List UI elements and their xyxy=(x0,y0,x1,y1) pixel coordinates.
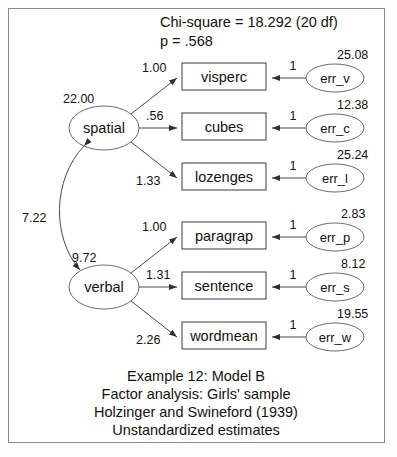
error-variance-err-s: 8.12 xyxy=(341,257,365,271)
error-label-err-p: err_p xyxy=(320,230,350,245)
loading-label-sentence: 1.31 xyxy=(146,268,170,282)
error-variance-err-c: 12.38 xyxy=(337,98,368,112)
observed-label-cubes: cubes xyxy=(205,119,244,135)
caption-line-1: Example 12: Model B xyxy=(127,368,265,384)
diagram-page: Chi-square = 18.292 (20 df) p = .568 vis… xyxy=(0,0,397,457)
chi-square-text: Chi-square = 18.292 (20 df) xyxy=(160,14,338,30)
error-variance-err-p: 2.83 xyxy=(341,207,365,221)
observed-label-visperc: visperc xyxy=(201,69,247,85)
latent-variance-verbal: 9.72 xyxy=(72,251,96,265)
error-path-label-err-c: 1 xyxy=(290,109,297,123)
latent-variance-spatial: 22.00 xyxy=(63,92,94,106)
caption-line-4: Unstandardized estimates xyxy=(112,422,280,438)
latent-label-spatial: spatial xyxy=(83,120,125,136)
error-path-label-err-v: 1 xyxy=(290,59,297,73)
latent-label-verbal: verbal xyxy=(84,279,124,295)
caption-line-2: Factor analysis: Girls' sample xyxy=(102,386,291,402)
observed-label-wordmean: wordmean xyxy=(189,328,258,344)
loading-label-cubes: .56 xyxy=(146,109,163,123)
observed-label-lozenges: lozenges xyxy=(195,169,253,185)
error-label-err-w: err_w xyxy=(319,330,352,345)
error-path-label-err-s: 1 xyxy=(290,268,297,282)
loading-path-wordmean xyxy=(131,301,177,337)
error-path-label-err-l: 1 xyxy=(290,159,297,173)
loading-label-visperc: 1.00 xyxy=(142,61,166,75)
error-variance-err-v: 25.08 xyxy=(337,48,368,62)
error-label-err-s: err_s xyxy=(320,280,350,295)
caption-line-3: Holzinger and Swineford (1939) xyxy=(94,404,298,420)
loading-path-lozenges xyxy=(131,142,177,178)
error-variance-err-w: 19.55 xyxy=(337,307,368,321)
observed-label-paragrap: paragrap xyxy=(195,228,253,244)
error-label-err-c: err_c xyxy=(320,121,350,136)
error-label-err-l: err_l xyxy=(322,171,348,186)
loading-label-wordmean: 2.26 xyxy=(136,333,160,347)
error-variance-err-l: 25.24 xyxy=(337,148,368,162)
covariance-label: 7.22 xyxy=(22,211,46,225)
error-path-label-err-w: 1 xyxy=(290,318,297,332)
p-value-text: p = .568 xyxy=(160,33,213,49)
loading-label-paragrap: 1.00 xyxy=(142,220,166,234)
observed-label-sentence: sentence xyxy=(195,278,254,294)
error-path-label-err-p: 1 xyxy=(290,218,297,232)
loading-label-lozenges: 1.33 xyxy=(136,174,160,188)
error-label-err-v: err_v xyxy=(320,71,350,86)
path-diagram: Chi-square = 18.292 (20 df) p = .568 vis… xyxy=(0,0,397,457)
